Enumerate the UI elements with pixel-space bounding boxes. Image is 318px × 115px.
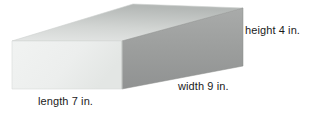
height-label: height 4 in.	[245, 24, 300, 37]
prism-figure: height 4 in. width 9 in. length 7 in.	[0, 0, 318, 115]
width-label: width 9 in.	[178, 80, 229, 93]
prism-front-face	[12, 41, 122, 89]
length-label: length 7 in.	[38, 95, 93, 108]
